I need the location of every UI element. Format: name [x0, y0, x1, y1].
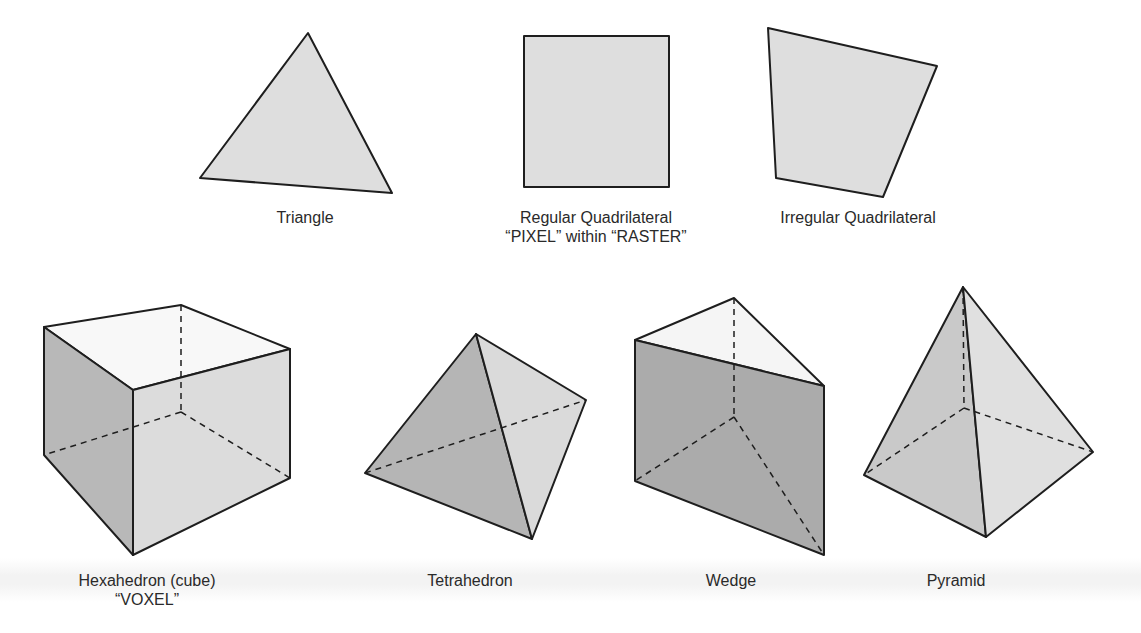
pyramid-label-text: Pyramid	[927, 571, 986, 590]
triangle-label: Triangle	[276, 208, 333, 227]
wedge-shape	[635, 298, 824, 555]
pyramid-shape	[864, 287, 1093, 537]
wedge-label: Wedge	[706, 571, 756, 590]
shapes-svg	[0, 0, 1141, 633]
regular-quadrilateral-label-text: Regular Quadrilateral	[505, 208, 686, 227]
tetrahedron-shape	[365, 334, 586, 539]
hexahedron-shape	[44, 305, 290, 555]
hexahedron-label: Hexahedron (cube) “VOXEL”	[79, 571, 216, 609]
figure-canvas: Triangle Regular Quadrilateral “PIXEL” w…	[0, 0, 1141, 633]
regular-quadrilateral-sublabel: “PIXEL” within “RASTER”	[505, 227, 686, 246]
tetrahedron-label-text: Tetrahedron	[427, 571, 512, 590]
irregular-quadrilateral-label-text: Irregular Quadrilateral	[780, 208, 936, 227]
hexahedron-sublabel: “VOXEL”	[79, 590, 216, 609]
triangle-shape	[200, 33, 392, 193]
wedge-label-text: Wedge	[706, 571, 756, 590]
regular-quadrilateral-label: Regular Quadrilateral “PIXEL” within “RA…	[505, 208, 686, 246]
pyramid-label: Pyramid	[927, 571, 986, 590]
irregular-quadrilateral-label: Irregular Quadrilateral	[780, 208, 936, 227]
regular-quadrilateral-shape	[524, 36, 669, 187]
tetrahedron-label: Tetrahedron	[427, 571, 512, 590]
hexahedron-label-text: Hexahedron (cube)	[79, 571, 216, 590]
irregular-quadrilateral-shape	[768, 28, 937, 197]
triangle-label-text: Triangle	[276, 208, 333, 227]
